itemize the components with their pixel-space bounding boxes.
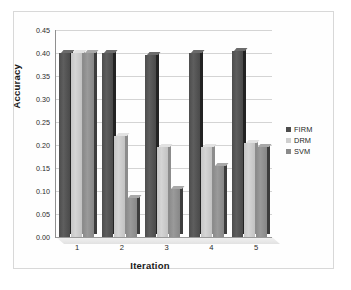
x-axis-title: Iteration bbox=[0, 260, 300, 271]
x-tick-label: 3 bbox=[147, 243, 187, 252]
y-tick-label: 0.25 bbox=[16, 118, 50, 127]
bar-svm bbox=[83, 53, 94, 237]
x-tick-label: 2 bbox=[102, 243, 142, 252]
y-tick-label: 0.35 bbox=[16, 72, 50, 81]
legend-item: SVM bbox=[286, 146, 332, 157]
bar-group bbox=[145, 30, 188, 237]
y-tick-label: 0.05 bbox=[16, 210, 50, 219]
y-tick-label: 0.30 bbox=[16, 95, 50, 104]
bar-firm bbox=[102, 53, 113, 237]
legend-label: DRM bbox=[294, 136, 311, 145]
y-tick-label: 0.20 bbox=[16, 141, 50, 150]
bar-group bbox=[189, 30, 232, 237]
bar-svm bbox=[126, 198, 137, 237]
bar-chart: Accuracy Iteration 0.000.050.100.150.200… bbox=[0, 0, 351, 290]
bar-svm bbox=[256, 147, 267, 237]
bar-drm bbox=[157, 147, 168, 237]
legend-label: SVM bbox=[294, 147, 310, 156]
y-tick-label: 0.15 bbox=[16, 164, 50, 173]
legend-label: FIRM bbox=[294, 125, 312, 134]
bar-firm bbox=[232, 51, 243, 237]
bar-drm bbox=[244, 143, 255, 237]
legend-item: FIRM bbox=[286, 124, 332, 135]
bar-group bbox=[232, 30, 275, 237]
plot-area: 0.000.050.100.150.200.250.300.350.400.45 bbox=[56, 30, 272, 237]
bar-drm bbox=[114, 136, 125, 237]
legend-swatch-firm bbox=[286, 127, 291, 132]
x-tick-label: 1 bbox=[57, 243, 97, 252]
y-tick-label: 0.45 bbox=[16, 26, 50, 35]
legend-swatch-drm bbox=[286, 138, 291, 143]
y-tick-label: 0.00 bbox=[16, 233, 50, 242]
y-tick-label: 0.40 bbox=[16, 49, 50, 58]
bar-firm bbox=[145, 55, 156, 237]
bar-group bbox=[102, 30, 145, 237]
bar-svm bbox=[213, 166, 224, 237]
bar-firm bbox=[59, 53, 70, 237]
x-tick-label: 4 bbox=[191, 243, 231, 252]
chart-legend: FIRMDRMSVM bbox=[286, 124, 332, 157]
bar-drm bbox=[71, 53, 82, 237]
bar-svm bbox=[169, 189, 180, 237]
bar-firm bbox=[189, 53, 200, 237]
legend-swatch-svm bbox=[286, 149, 291, 154]
y-tick-label: 0.10 bbox=[16, 187, 50, 196]
legend-item: DRM bbox=[286, 135, 332, 146]
bar-drm bbox=[201, 147, 212, 237]
bar-group bbox=[59, 30, 102, 237]
x-tick-label: 5 bbox=[236, 243, 276, 252]
